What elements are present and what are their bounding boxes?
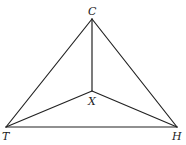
segment-tx bbox=[6, 91, 92, 127]
segment-ct bbox=[6, 19, 92, 127]
label-t: T bbox=[2, 130, 11, 143]
label-x: X bbox=[87, 95, 97, 108]
label-c: C bbox=[88, 5, 97, 18]
segment-hx bbox=[92, 91, 177, 127]
segment-ch bbox=[92, 19, 177, 127]
diagram-svg: C X T H bbox=[0, 0, 186, 145]
label-h: H bbox=[171, 130, 182, 143]
triangle-diagram: C X T H bbox=[0, 0, 186, 145]
